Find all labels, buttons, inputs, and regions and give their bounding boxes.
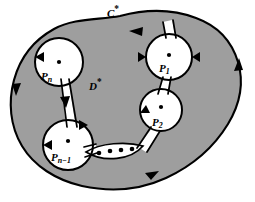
center-dot-p2 xyxy=(159,105,163,109)
ellipsis-dot-1 xyxy=(97,151,102,156)
label-region: D* xyxy=(89,81,102,92)
label-pn-base: P xyxy=(41,70,48,82)
label-d-base: D xyxy=(89,80,97,92)
label-outer-curve: C* xyxy=(107,8,119,19)
region-diagram xyxy=(0,0,255,202)
label-p1-base: P xyxy=(159,62,166,74)
figure-canvas: C* D* Pn P1 P2 Pn−1 xyxy=(0,0,255,202)
ellipsis-dot-4 xyxy=(130,147,135,152)
label-c-star: * xyxy=(114,4,119,14)
label-pn1-sub: n−1 xyxy=(58,156,71,165)
center-dot-pn1 xyxy=(66,139,70,143)
shaded-region-d-star xyxy=(11,11,241,189)
center-dot-pn xyxy=(57,60,61,64)
label-p1-sub: 1 xyxy=(166,67,170,76)
label-hole-p1: P1 xyxy=(159,63,170,74)
ellipsis-dot-2 xyxy=(108,149,113,154)
label-pn-sub: n xyxy=(48,75,52,84)
label-hole-pn-minus-1: Pn−1 xyxy=(51,152,71,163)
label-d-star: * xyxy=(97,77,102,87)
label-hole-pn: Pn xyxy=(41,71,52,82)
label-pn1-base: P xyxy=(51,151,58,163)
label-p2-base: P xyxy=(152,116,159,128)
center-dot-p1 xyxy=(167,53,171,57)
label-hole-p2: P2 xyxy=(152,117,163,128)
label-p2-sub: 2 xyxy=(159,121,163,130)
ellipsis-dot-3 xyxy=(119,148,124,153)
